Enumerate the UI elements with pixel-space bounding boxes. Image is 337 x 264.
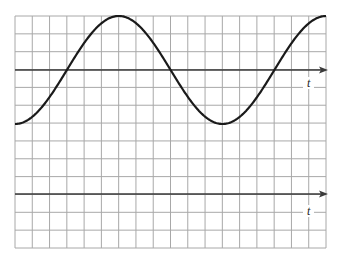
graph-canvas (0, 0, 337, 264)
upper-t-axis-label: t (303, 77, 314, 89)
graph-paper-grid (15, 16, 326, 248)
lower-t-axis-label: t (303, 205, 314, 217)
time-axes (15, 67, 328, 198)
